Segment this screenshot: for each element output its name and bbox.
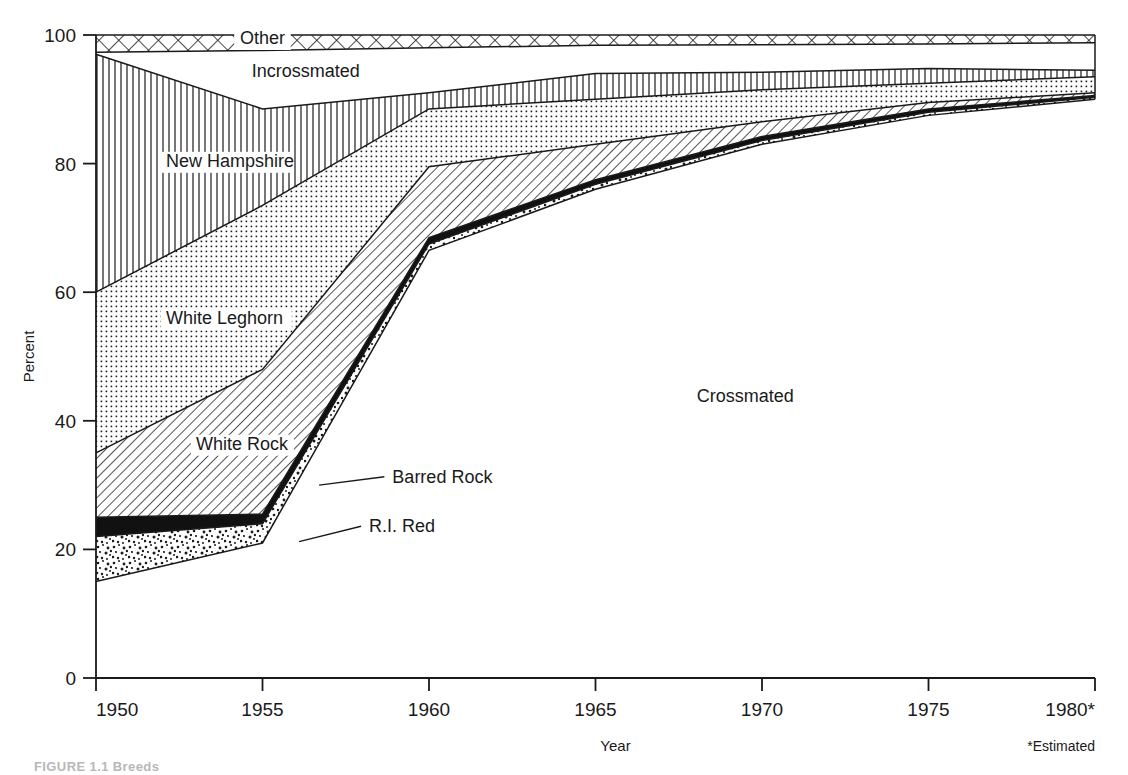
y-tick-label: 80 bbox=[55, 154, 76, 175]
y-tick-label: 40 bbox=[55, 411, 76, 432]
y-tick-label: 100 bbox=[44, 25, 76, 46]
band-label-crossmated: Crossmated bbox=[697, 386, 794, 406]
x-tick-label: 1970 bbox=[741, 699, 783, 720]
band-label-white-rock: White Rock bbox=[196, 434, 289, 454]
annotation-label: R.I. Red bbox=[369, 516, 435, 536]
x-tick-label: 1955 bbox=[241, 699, 283, 720]
band-label-new-hampshire: New Hampshire bbox=[166, 151, 294, 171]
area-bands bbox=[96, 35, 1095, 678]
band-label-white-leghorn: White Leghorn bbox=[166, 308, 283, 328]
band-label-incrossmated: Incrossmated bbox=[252, 61, 360, 81]
x-tick-label: 1975 bbox=[907, 699, 949, 720]
y-tick-label: 60 bbox=[55, 282, 76, 303]
stacked-area-chart: 0204060801001950195519601965197019751980… bbox=[0, 0, 1128, 775]
y-tick-label: 20 bbox=[55, 539, 76, 560]
estimated-note: *Estimated bbox=[1027, 738, 1095, 754]
y-axis-title: Percent bbox=[20, 330, 37, 383]
x-tick-label: 1980* bbox=[1045, 699, 1095, 720]
figure-caption: FIGURE 1.1 Breeds bbox=[34, 759, 159, 774]
band-label-other: Other bbox=[240, 28, 285, 48]
annotation-label: Barred Rock bbox=[392, 467, 493, 487]
figure-root: 0204060801001950195519601965197019751980… bbox=[0, 0, 1128, 775]
x-tick-label: 1965 bbox=[574, 699, 616, 720]
x-axis-title: Year bbox=[600, 737, 630, 754]
x-tick-label: 1950 bbox=[96, 699, 138, 720]
x-tick-label: 1960 bbox=[408, 699, 450, 720]
y-tick-label: 0 bbox=[65, 668, 76, 689]
